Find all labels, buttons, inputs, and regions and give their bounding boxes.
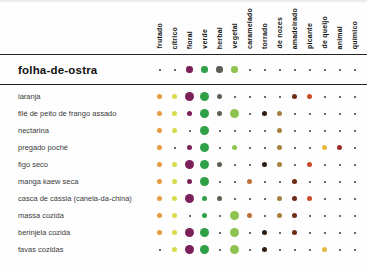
intensity-dot xyxy=(354,96,356,98)
matrix-cell xyxy=(257,198,272,200)
matrix-cell xyxy=(332,198,347,200)
intensity-dot xyxy=(185,245,194,254)
matrix-cell xyxy=(272,181,287,183)
intensity-dot xyxy=(249,130,251,132)
matrix-cell xyxy=(257,130,272,132)
column-header-label: de queijo xyxy=(321,16,328,49)
intensity-dot xyxy=(174,147,176,149)
intensity-dot xyxy=(234,164,236,166)
pairing-row: favas cozidas xyxy=(0,241,367,258)
matrix-cell xyxy=(287,69,302,71)
intensity-dot xyxy=(354,164,356,166)
matrix-cell xyxy=(227,164,242,166)
intensity-dot xyxy=(292,94,297,99)
pairing-row: pregado poché xyxy=(0,139,367,156)
matrix-cell xyxy=(287,130,302,132)
intensity-dot xyxy=(172,247,177,252)
matrix-cell xyxy=(227,130,242,132)
intensity-dot xyxy=(202,213,207,218)
matrix-cell xyxy=(182,215,197,217)
matrix-cell xyxy=(167,230,182,235)
matrix-cell xyxy=(302,94,317,99)
matrix-cell xyxy=(287,196,302,201)
intensity-dot xyxy=(249,69,251,71)
matrix-cell xyxy=(272,69,287,71)
matrix-cell xyxy=(167,147,182,149)
matrix-cell xyxy=(182,130,197,132)
matrix-cell xyxy=(347,249,362,251)
matrix-cell xyxy=(257,69,272,71)
intensity-dot xyxy=(324,113,326,115)
matrix-cell xyxy=(272,213,287,218)
column-header-label: animal xyxy=(336,26,343,49)
intensity-dot xyxy=(279,232,281,234)
intensity-dot xyxy=(249,147,251,149)
intensity-dot xyxy=(202,196,207,201)
pairing-row: casca de cássia (canela-da-china) xyxy=(0,190,367,207)
intensity-dot xyxy=(339,96,341,98)
pairing-row-label: figo seco xyxy=(0,160,152,169)
intensity-dot xyxy=(217,196,222,201)
matrix-cell xyxy=(212,196,227,201)
matrix-cell xyxy=(242,232,257,234)
intensity-dot xyxy=(231,66,238,73)
matrix-cell xyxy=(287,94,302,99)
intensity-dot xyxy=(157,196,162,201)
intensity-dot xyxy=(279,181,281,183)
matrix-cell xyxy=(302,147,317,149)
column-header-cell: herbal xyxy=(212,27,227,49)
intensity-dot xyxy=(159,249,161,251)
intensity-dot xyxy=(324,96,326,98)
intensity-dot xyxy=(354,198,356,200)
pairing-row-label: manga kaew seca xyxy=(0,177,152,186)
intensity-dot xyxy=(217,111,222,116)
matrix-cell xyxy=(347,232,362,234)
intensity-dot xyxy=(157,230,162,235)
matrix-cell xyxy=(152,111,167,116)
intensity-dot xyxy=(247,213,252,218)
intensity-dot xyxy=(185,194,194,203)
intensity-dot xyxy=(262,111,267,116)
column-header-label: químico xyxy=(351,21,358,49)
intensity-dot xyxy=(185,92,194,101)
matrix-cell xyxy=(242,147,257,149)
intensity-dot xyxy=(339,113,341,115)
matrix-cell xyxy=(302,69,317,71)
column-header-cell: de queijo xyxy=(317,16,332,49)
intensity-dot xyxy=(249,232,251,234)
matrix-cell xyxy=(212,66,227,73)
matrix-cell xyxy=(272,128,287,133)
matrix-cell xyxy=(197,213,212,218)
matrix-cell xyxy=(197,66,212,73)
matrix-cell xyxy=(182,245,197,254)
matrix-cell xyxy=(212,147,227,149)
matrix-cell xyxy=(332,249,347,251)
matrix-cell xyxy=(302,232,317,234)
intensity-dot xyxy=(322,145,327,150)
matrix-cell xyxy=(317,247,332,252)
intensity-dot xyxy=(157,128,162,133)
matrix-cell xyxy=(257,96,272,98)
matrix-cell xyxy=(332,181,347,183)
intensity-dot xyxy=(309,232,311,234)
matrix-cell xyxy=(347,164,362,166)
intensity-dot xyxy=(249,249,251,251)
column-headers: frutadocítricofloralverdeherbalvegetalca… xyxy=(0,2,367,54)
pairing-row: filé de peito de frango assado xyxy=(0,105,367,122)
intensity-dot xyxy=(339,130,341,132)
matrix-cell xyxy=(257,147,272,149)
matrix-cell xyxy=(182,160,197,169)
intensity-dot xyxy=(201,66,208,73)
intensity-dot xyxy=(219,215,221,217)
matrix-cell xyxy=(272,96,287,98)
matrix-cell xyxy=(227,211,242,220)
matrix-cell xyxy=(152,94,167,99)
matrix-cell xyxy=(227,198,242,200)
intensity-dot xyxy=(339,181,341,183)
intensity-dot xyxy=(264,181,266,183)
intensity-dot xyxy=(187,179,192,184)
intensity-dot xyxy=(219,147,221,149)
intensity-dot xyxy=(322,247,327,252)
intensity-dot xyxy=(309,181,311,183)
intensity-dot xyxy=(189,215,191,217)
